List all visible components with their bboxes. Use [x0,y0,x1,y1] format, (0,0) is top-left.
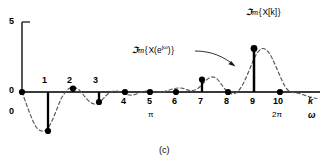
y-axis-label-lower: 0 [9,107,14,116]
k-tick-label-7: 7 [198,97,203,106]
figure-caption: (c) [159,146,170,155]
omega-tick-label-pi: π [148,111,154,119]
k-tick-label-4: 4 [121,97,126,106]
k-tick-label-5: 5 [147,97,152,106]
k-tick-label-9: 9 [250,97,255,106]
k-tick-label-6: 6 [172,97,177,106]
stem-dot-k0 [19,89,25,95]
stem-dot-k9 [251,45,258,52]
stem-dot-k10 [277,89,283,95]
stem-dot-k1 [45,128,51,134]
k-tick-label-2: 2 [67,76,72,85]
k-tick-label-8: 8 [224,97,229,106]
stem-dot-k6 [173,89,179,95]
x-axis-name-omega: ω [308,111,316,120]
signal-label: ℑm { X[k] } [246,8,281,17]
stem-dot-k4 [122,89,128,95]
stem-dot-k5 [147,89,153,95]
k-tick-label-3: 3 [93,76,98,85]
figure-panel: 5 0 0 ℑm { X[k] } ℑm { X(ejω) } 1 2 3 4 … [0,0,334,166]
x-axis-name-k: k [308,97,313,106]
dtft-label: ℑm { X(ejω) } [132,44,174,54]
stem-dot-k8 [225,89,231,95]
annotation-leader-line [195,51,234,65]
stem-dot-k3 [96,99,102,105]
k-tick-label-10: 10 [273,97,283,106]
k-tick-label-1: 1 [42,76,47,85]
omega-tick-label-2pi: 2π [272,111,282,119]
stem-dot-k7 [199,76,205,82]
y-axis-label-0: 0 [9,86,14,95]
stem-dot-k2 [70,85,76,91]
y-axis-label-5: 5 [9,17,14,26]
stem-plot-svg [0,0,334,166]
